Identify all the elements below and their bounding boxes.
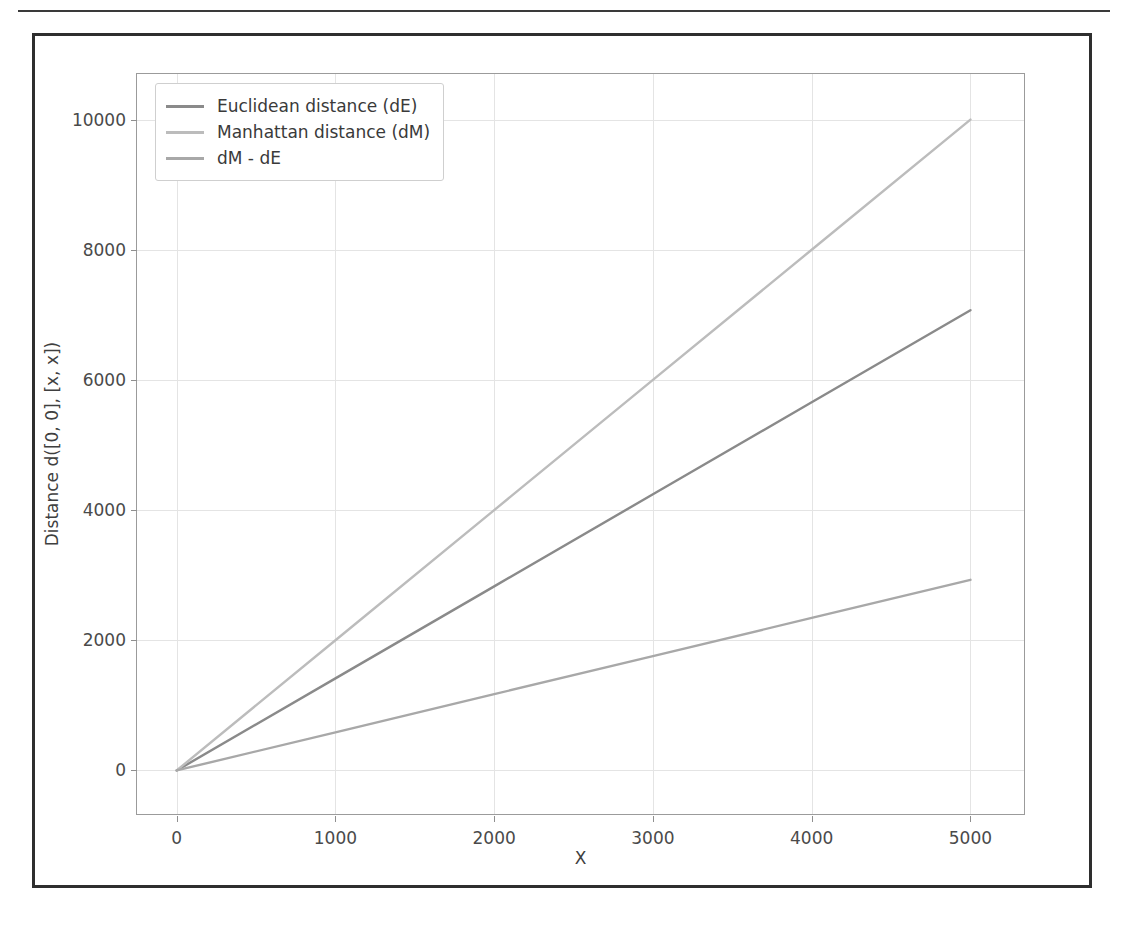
legend-swatch	[166, 131, 204, 134]
y-axis-label: Distance d([0, 0], [x, x])	[35, 73, 69, 815]
x-tick-label: 3000	[631, 828, 674, 848]
x-tick-mark	[335, 816, 336, 822]
page-top-rule	[18, 10, 1110, 12]
legend-label: Manhattan distance (dM)	[217, 122, 430, 142]
legend-swatch	[166, 157, 204, 160]
y-tick-label: 2000	[83, 630, 126, 650]
legend-item: Euclidean distance (dE)	[166, 93, 430, 119]
plot-lines	[137, 74, 1026, 816]
x-tick-mark	[177, 816, 178, 822]
y-axis-label-text: Distance d([0, 0], [x, x])	[42, 342, 62, 547]
legend-item: dM - dE	[166, 145, 430, 171]
x-tick-mark	[653, 816, 654, 822]
legend-item: Manhattan distance (dM)	[166, 119, 430, 145]
x-tick-label: 5000	[949, 828, 992, 848]
figure-frame: Distance d([0, 0], [x, x]) X 02000400060…	[32, 33, 1092, 888]
series-line	[177, 120, 971, 771]
x-tick-mark	[970, 816, 971, 822]
x-tick-mark	[812, 816, 813, 822]
series-line	[177, 580, 971, 771]
legend-label: Euclidean distance (dE)	[217, 96, 417, 116]
x-tick-mark	[494, 816, 495, 822]
plot-axes: 0200040006000800010000010002000300040005…	[136, 73, 1025, 815]
y-tick-label: 10000	[72, 110, 126, 130]
x-tick-label: 4000	[790, 828, 833, 848]
y-tick-label: 8000	[83, 240, 126, 260]
y-tick-label: 4000	[83, 500, 126, 520]
legend: Euclidean distance (dE)Manhattan distanc…	[155, 83, 444, 181]
x-tick-label: 1000	[314, 828, 357, 848]
x-axis-label: X	[136, 848, 1025, 868]
x-tick-label: 2000	[473, 828, 516, 848]
y-tick-label: 0	[115, 760, 126, 780]
x-tick-label: 0	[171, 828, 182, 848]
legend-swatch	[166, 105, 204, 108]
series-line	[177, 310, 971, 770]
legend-label: dM - dE	[217, 148, 281, 168]
y-tick-label: 6000	[83, 370, 126, 390]
